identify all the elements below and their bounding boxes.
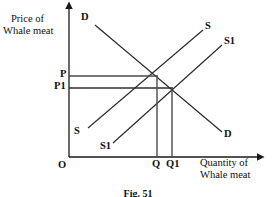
figure-container: Price of Whale meat Quantity of Whale me… [0, 0, 276, 197]
y-axis-title-line1: Price of [11, 14, 44, 25]
price-tick-p1: P1 [54, 81, 66, 92]
demand-curve [95, 25, 222, 132]
x-axis-title-line1: Quantity of [200, 158, 248, 169]
supply1-curve-label-bottom: S1 [100, 141, 111, 152]
demand-curve-label-bottom: D [224, 129, 232, 140]
y-axis-title-line2: Whale meat [3, 26, 53, 37]
quantity-tick-q1: Q1 [166, 159, 179, 170]
supply1-curve-label-top: S1 [224, 36, 235, 47]
quantity-tick-q: Q [152, 159, 160, 170]
demand-curve-label-top: D [81, 12, 89, 23]
x-axis-title-line2: Whale meat [200, 170, 250, 181]
price-tick-p: P [60, 69, 66, 80]
supply-curve-label-top: S [205, 21, 211, 32]
origin-label: O [58, 160, 66, 171]
figure-caption: Fig. 51 [0, 188, 276, 197]
supply-curve-label-bottom: S [74, 126, 80, 137]
